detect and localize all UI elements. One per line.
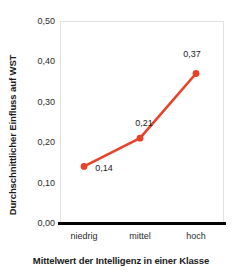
x-tick-label: mittel bbox=[129, 231, 151, 241]
data-point-label: 0,14 bbox=[95, 163, 113, 173]
x-axis-title: Mittelwert der Intelligenz in einer Klas… bbox=[0, 255, 242, 266]
chart-overlay: 0,140,210,37niedrigmittelhoch bbox=[0, 0, 242, 276]
line-chart: Durchschnittlicher Einfluss auf WST 0,50… bbox=[0, 0, 242, 276]
x-tick-label: niedrig bbox=[70, 231, 97, 241]
data-point-label: 0,21 bbox=[135, 118, 153, 128]
x-tick-label: hoch bbox=[186, 231, 206, 241]
data-point-label: 0,37 bbox=[183, 49, 201, 59]
